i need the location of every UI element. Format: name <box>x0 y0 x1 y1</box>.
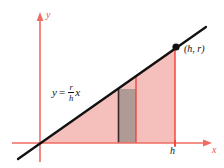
x-axis-label: x <box>212 145 216 155</box>
y-axis-arrow-icon <box>37 12 44 21</box>
figure-canvas <box>0 0 224 168</box>
equation-denominator: h <box>68 94 74 103</box>
x-axis-arrow-icon <box>203 140 212 147</box>
equation-y: y <box>52 86 57 98</box>
equation-fraction: rh <box>68 83 74 102</box>
point-marker <box>172 43 179 50</box>
equation-numerator: r <box>68 83 74 92</box>
y-axis-label: y <box>46 10 50 20</box>
point-label: (h, r) <box>184 44 205 54</box>
equation-variable: x <box>75 86 80 98</box>
representative-slice-rect <box>118 89 136 143</box>
equation-equals: = <box>59 86 65 98</box>
function-equation-label: y=rhx <box>52 84 80 103</box>
x-tick-label-h: h <box>170 146 175 156</box>
